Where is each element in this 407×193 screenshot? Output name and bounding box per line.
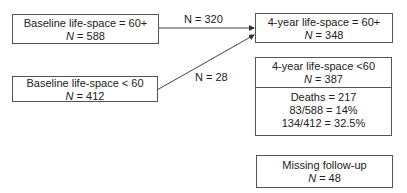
followup-high-box: 4-year life-space = 60+ N = 348: [255, 13, 393, 43]
missing-n: N = 48: [257, 172, 392, 185]
baseline-high-n: N = 588: [13, 30, 158, 43]
followup-high-n: N = 348: [256, 29, 392, 42]
missing-title: Missing follow-up: [257, 159, 392, 172]
arrow-label-low: N = 28: [195, 71, 228, 83]
baseline-low-box: Baseline life-space < 60 N = 412: [12, 76, 158, 102]
deaths-count: Deaths = 217: [256, 91, 391, 104]
arrow-label-high: N = 320: [184, 13, 223, 25]
baseline-low-n: N = 412: [13, 90, 157, 103]
followup-low-title: 4-year life-space <60: [256, 60, 391, 73]
followup-high-title: 4-year life-space = 60+: [256, 16, 392, 29]
followup-low-n: N = 387: [256, 73, 391, 86]
baseline-high-title: Baseline life-space = 60+: [13, 17, 158, 30]
baseline-high-box: Baseline life-space = 60+ N = 588: [12, 14, 159, 44]
baseline-low-title: Baseline life-space < 60: [13, 77, 157, 90]
death-rate-high: 83/588 = 14%: [256, 104, 391, 117]
missing-box: Missing follow-up N = 48: [256, 155, 393, 188]
followup-low-box: 4-year life-space <60 N = 387 Deaths = 2…: [255, 57, 392, 136]
death-rate-low: 134/412 = 32.5%: [256, 117, 391, 130]
